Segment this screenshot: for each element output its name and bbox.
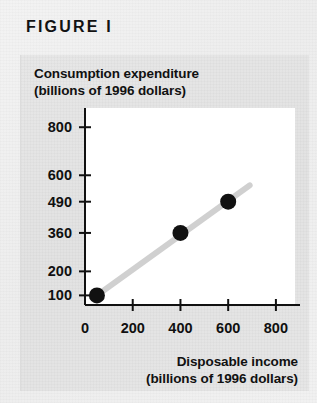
x-axis-title-line2: (billions of 1996 dollars) bbox=[0, 370, 308, 387]
y-axis-title-line2: (billions of 1996 dollars) bbox=[34, 82, 186, 99]
x-axis-title-line1: Disposable income bbox=[0, 353, 308, 370]
figure-label: FIGURE I bbox=[26, 18, 113, 36]
y-axis-title-line1: Consumption expenditure bbox=[34, 65, 199, 82]
figure-panel bbox=[20, 55, 309, 391]
